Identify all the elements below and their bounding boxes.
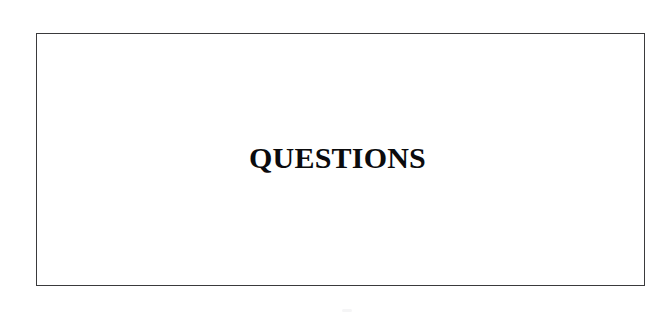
scan-artifact-speckle	[342, 309, 352, 312]
slide-title: QUESTIONS	[249, 143, 426, 173]
slide-content-area: QUESTIONS	[37, 34, 644, 285]
slide-frame: QUESTIONS	[36, 33, 645, 286]
scanned-page: QUESTIONS	[0, 0, 670, 318]
